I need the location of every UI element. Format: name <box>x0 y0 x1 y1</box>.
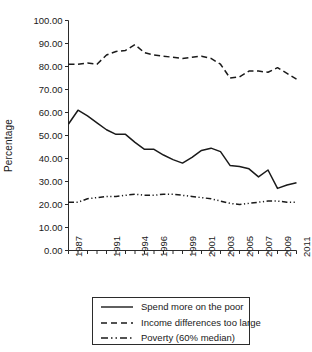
legend-swatch-dashed <box>99 315 135 331</box>
legend-label-income-differences: Income differences too large <box>141 317 261 329</box>
legend-item-spend-more: Spend more on the poor <box>93 299 249 315</box>
legend-label-spend-more: Spend more on the poor <box>141 301 243 313</box>
series-line-income-differences <box>69 45 297 80</box>
legend-swatch-dashdot <box>99 330 135 346</box>
legend-label-poverty: Poverty (60% median) <box>141 332 235 344</box>
series-line-poverty <box>69 194 297 204</box>
chart-legend: Spend more on the poor Income difference… <box>92 297 250 345</box>
legend-swatch-solid <box>99 299 135 315</box>
chart-figure: Percentage 0.0010.0020.0030.0040.0050.00… <box>0 0 312 352</box>
legend-item-income-differences: Income differences too large <box>93 315 249 331</box>
legend-item-poverty: Poverty (60% median) <box>93 330 249 346</box>
series-line-spend-more <box>69 110 297 188</box>
